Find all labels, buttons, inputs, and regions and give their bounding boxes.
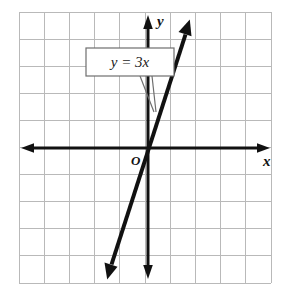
equation-callout: y = 3x (86, 48, 174, 76)
graph-figure: y = 3x y x O (0, 0, 287, 299)
origin-label: O (131, 153, 141, 168)
coordinate-graph: y = 3x y x O (0, 0, 287, 299)
y-axis-label: y (155, 13, 164, 29)
equation-callout-label: y = 3x (109, 54, 150, 70)
x-axis-label: x (262, 153, 271, 169)
